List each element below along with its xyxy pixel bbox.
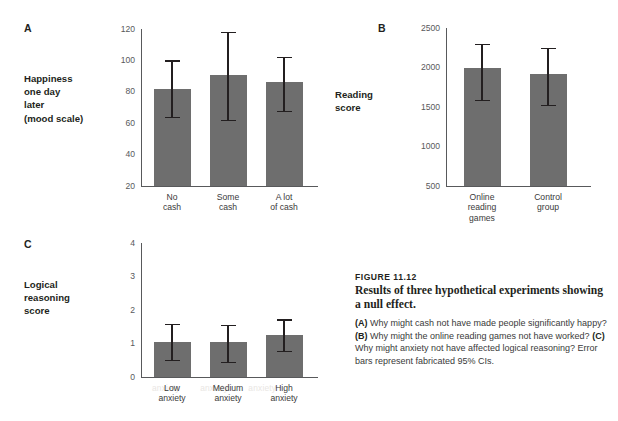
error-bar-cap-lower <box>165 117 180 118</box>
caption-marker-c: (C) <box>592 331 605 341</box>
x-axis-tick-label-line: Medium <box>200 383 256 393</box>
error-bar-stem <box>283 319 284 350</box>
caption-text-b: Why might the online reading games not h… <box>368 331 593 341</box>
y-axis-line <box>446 28 447 186</box>
error-bar-stem <box>227 325 228 362</box>
x-axis-tick-label-line: Online <box>449 192 515 202</box>
y-axis-tick-label: 0 <box>95 373 135 382</box>
x-axis-tick-label: A lotof cash <box>256 192 312 213</box>
x-axis-line <box>446 186 591 187</box>
panel-b: B Reading score 5001000150020002500Onlin… <box>330 0 618 225</box>
x-axis-tick-label: Mediumanxiety <box>200 383 256 404</box>
panel-c-plot-area: 01234LowanxietyMediumanxietyHighanxiety <box>0 225 330 421</box>
error-bar-cap-upper <box>277 319 292 320</box>
error-bar-cap-upper <box>221 32 236 33</box>
caption-text-a: Why might cash not have made people sign… <box>368 318 607 328</box>
figure-number: FIGURE 11.12 <box>355 272 607 282</box>
error-bar-cap-upper <box>221 325 236 326</box>
error-bar-stem <box>171 60 172 117</box>
x-axis-tick-label-line: High <box>256 383 312 393</box>
x-axis-tick-label-line: reading <box>449 202 515 212</box>
x-axis-line <box>141 377 318 378</box>
figure-title: Results of three hypothetical experiment… <box>355 284 607 311</box>
x-axis-tick-label-line: cash <box>144 202 200 212</box>
error-bar-cap-lower <box>277 351 292 352</box>
error-bar-cap-upper <box>277 57 292 58</box>
y-axis-tick-label: 40 <box>95 150 135 159</box>
x-axis-tick-label-line: group <box>515 202 581 212</box>
x-axis-tick-label: Onlinereadinggames <box>449 192 515 223</box>
caption-marker-a: (A) <box>355 318 368 328</box>
y-axis-tick-label: 80 <box>95 87 135 96</box>
error-bar-cap-lower <box>277 111 292 112</box>
error-bar-stem <box>227 32 228 120</box>
y-axis-line <box>141 243 142 377</box>
x-axis-tick-label-line: A lot <box>256 192 312 202</box>
x-axis-tick-label: Somecash <box>200 192 256 213</box>
x-axis-tick-label-line: Low <box>144 383 200 393</box>
y-axis-tick-label: 20 <box>95 182 135 191</box>
y-axis-tick-label: 3 <box>95 272 135 281</box>
x-axis-tick-label-line: anxiety <box>144 393 200 403</box>
x-axis-line <box>141 186 318 187</box>
x-axis-tick-label-line: Some <box>200 192 256 202</box>
panel-b-plot-area: 5001000150020002500OnlinereadinggamesCon… <box>330 0 618 225</box>
error-bar-cap-upper <box>541 48 556 49</box>
error-bar-cap-upper <box>165 324 180 325</box>
x-axis-tick-label: Highanxiety <box>256 383 312 404</box>
caption-marker-b: (B) <box>355 331 368 341</box>
panel-a: A Happiness one day later (mood scale) 2… <box>0 0 330 225</box>
error-bar-stem <box>171 324 172 360</box>
error-bar-cap-lower <box>475 100 490 101</box>
x-axis-tick-label-line: anxiety <box>200 393 256 403</box>
y-axis-tick-label: 2 <box>95 306 135 315</box>
y-axis-tick-label: 1 <box>95 339 135 348</box>
x-axis-tick-label-line: No <box>144 192 200 202</box>
y-axis-tick-label: 1500 <box>400 103 440 112</box>
error-bar-stem <box>481 44 482 100</box>
y-axis-tick-label: 2000 <box>400 63 440 72</box>
x-axis-tick-label-line: cash <box>200 202 256 212</box>
y-axis-tick-label: 4 <box>95 239 135 248</box>
error-bar-cap-lower <box>165 360 180 361</box>
y-axis-tick-label: 2500 <box>400 24 440 33</box>
y-axis-tick-label: 1000 <box>400 142 440 151</box>
panel-c: C Logical reasoning score 01234Lowanxiet… <box>0 225 330 421</box>
caption-text-c: Why might anxiety not have affected logi… <box>355 343 597 366</box>
error-bar-stem <box>547 48 548 105</box>
x-axis-tick-label: Nocash <box>144 192 200 213</box>
panel-a-plot-area: 20406080100120NocashSomecashA lotof cash <box>0 0 330 225</box>
x-axis-tick-label-line: games <box>449 213 515 223</box>
error-bar-cap-upper <box>165 60 180 61</box>
y-axis-line <box>141 29 142 186</box>
figure-caption-body: (A) Why might cash not have made people … <box>355 317 607 367</box>
y-axis-tick-label: 120 <box>95 25 135 34</box>
error-bar-cap-lower <box>541 105 556 106</box>
error-bar-cap-upper <box>475 44 490 45</box>
x-axis-tick-label-line: of cash <box>256 202 312 212</box>
x-axis-tick-label-line: Control <box>515 192 581 202</box>
error-bar-stem <box>283 57 284 110</box>
error-bar-cap-lower <box>221 362 236 363</box>
figure-caption: FIGURE 11.12 Results of three hypothetic… <box>355 272 607 368</box>
y-axis-tick-label: 100 <box>95 56 135 65</box>
figure-page: anxiety anxiety anxiety A Happiness one … <box>0 0 618 421</box>
x-axis-tick-label: Lowanxiety <box>144 383 200 404</box>
y-axis-tick-label: 500 <box>400 182 440 191</box>
y-axis-tick-label: 60 <box>95 119 135 128</box>
x-axis-tick-label-line: anxiety <box>256 393 312 403</box>
error-bar-cap-lower <box>221 120 236 121</box>
x-axis-tick-label: Controlgroup <box>515 192 581 213</box>
